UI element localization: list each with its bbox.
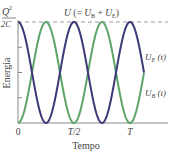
svg-text:2: 2 — [9, 5, 12, 11]
y-axis-title: Energia — [1, 57, 12, 88]
x-tick-half-t: T/2 — [68, 127, 81, 137]
y-ticks — [18, 47, 22, 98]
total-energy-label: U (= UB + UE) — [64, 8, 119, 19]
ue-label: UE (t) — [145, 52, 166, 63]
energy-chart: Q 2 2C U (= UB + UE) UE (t) UB (t) 0 T/2… — [0, 0, 172, 157]
svg-text:2C: 2C — [1, 19, 11, 29]
x-tick-t: T — [127, 127, 133, 137]
ub-label: UB (t) — [145, 88, 166, 99]
x-axis-title: Tempo — [72, 140, 100, 151]
y-max-label: Q 2 2C — [1, 5, 16, 29]
x-tick-0: 0 — [16, 127, 21, 137]
